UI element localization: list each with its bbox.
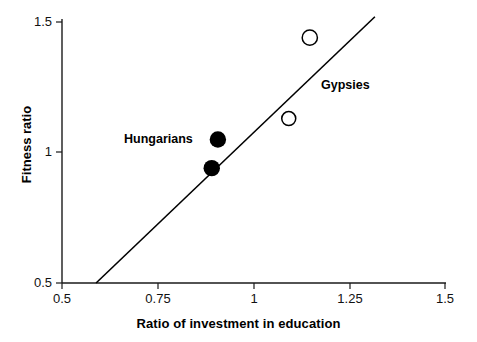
x-tick-label-0: 0.5	[32, 291, 92, 306]
x-axis-ticks	[62, 283, 445, 289]
trend-line	[96, 17, 375, 283]
series-hungarians-markers	[204, 131, 227, 176]
x-tick-label-4: 1.5	[415, 291, 475, 306]
annotation-gypsies: Gypsies	[321, 78, 370, 92]
scatter-chart-figure: 1.5 1 0.5 0.5 0.75 1 1.25 1.5 Ratio of i…	[0, 0, 477, 342]
data-point-open[interactable]	[302, 30, 317, 45]
data-point-open[interactable]	[282, 112, 296, 126]
y-tick-label-top: 1.5	[18, 14, 52, 29]
x-tick-label-3: 1.25	[320, 291, 380, 306]
y-tick-label-bottom: 0.5	[18, 275, 52, 290]
data-point-filled[interactable]	[210, 131, 226, 147]
y-axis-title: Fitness ratio	[19, 75, 34, 215]
x-tick-label-1: 0.75	[128, 291, 188, 306]
x-tick-label-2: 1	[224, 291, 284, 306]
data-point-filled[interactable]	[204, 160, 220, 176]
y-axis-ticks	[56, 22, 62, 283]
x-axis-title: Ratio of investment in education	[0, 316, 477, 331]
annotation-hungarians: Hungarians	[124, 132, 193, 146]
